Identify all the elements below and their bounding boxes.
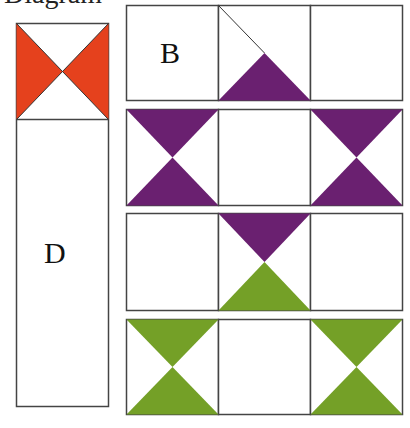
label-b: B <box>160 36 180 70</box>
strip-d <box>17 24 109 407</box>
row-2 <box>127 110 403 206</box>
row-3 <box>127 214 403 311</box>
label-d: D <box>44 236 66 270</box>
quilt-diagram <box>0 0 410 428</box>
row-4 <box>127 320 403 415</box>
